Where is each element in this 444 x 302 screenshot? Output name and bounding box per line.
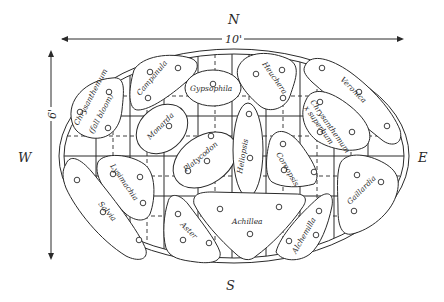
length-label: 10' [225,33,242,46]
east-label: E [417,150,428,165]
north-label: N [227,12,240,27]
label-gypsophila: Gypsophila [190,84,232,93]
west-label: W [18,150,33,165]
garden-plan: N S E W 10' 6' Chrysanthemum (fall bloom… [0,0,444,302]
width-dimension [44,50,58,260]
label-achillea: Achillea [231,217,263,226]
width-label: 6' [46,109,59,119]
bed-gaillardia [338,155,399,234]
south-label: S [226,278,235,293]
